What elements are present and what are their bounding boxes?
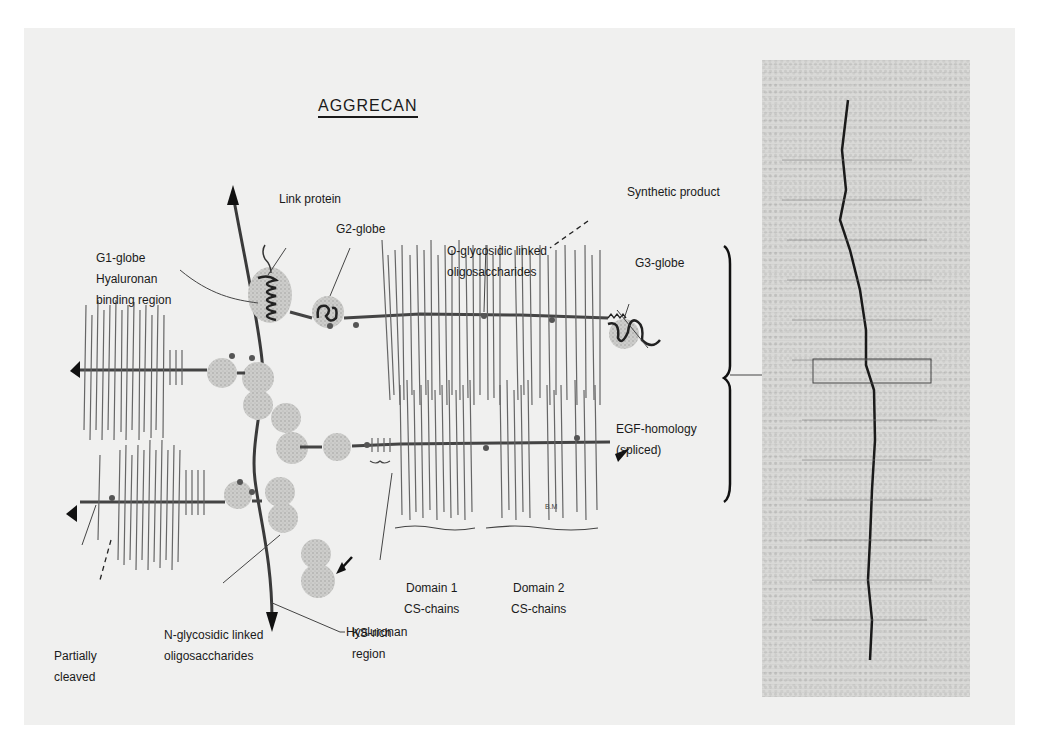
label-hyaluronan: Hyaluronan <box>346 622 407 643</box>
label-domain1: Domain 1CS-chains <box>404 536 459 641</box>
partially-cleaved-arrow <box>100 540 111 580</box>
cleavage-arrowhead-icon <box>66 505 77 522</box>
label-link-protein: Link protein <box>279 189 341 210</box>
arrow-down-icon <box>266 612 278 632</box>
electron-micrograph <box>762 60 970 697</box>
label-domain2: Domain 2CS-chains <box>511 536 566 641</box>
artist-initials: B.M <box>545 503 558 510</box>
cleavage-arrowhead-icon <box>70 361 80 378</box>
highlight-box <box>813 359 931 383</box>
label-g1-globe: G1-globeHyaluronanbinding region <box>96 206 171 332</box>
cs-chains-left-bottom <box>98 440 204 570</box>
label-g3-globe: G3-globe <box>635 253 684 274</box>
label-n-glycosidic: N-glycosidic linkedoligosaccharides <box>164 583 263 688</box>
label-synthetic-product: Synthetic product <box>627 182 720 203</box>
arrow-up-icon <box>227 185 239 205</box>
label-o-glycosidic: O-glycosidic linkedoligosaccharides <box>447 199 547 304</box>
label-egf-homology: EGF-homology(spliced) <box>616 377 697 482</box>
domain-braces <box>370 461 598 530</box>
label-partially-cleaved: Partiallycleaved <box>54 604 97 709</box>
label-g2-globe: G2-globe <box>336 219 385 240</box>
synthetic-product-arrow <box>550 221 588 248</box>
bracket <box>724 246 730 502</box>
